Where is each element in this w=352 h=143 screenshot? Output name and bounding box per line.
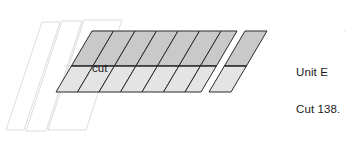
cut-number-label: Cut 138.: [296, 103, 340, 115]
corner-mark-glyph: ·: [343, 26, 346, 36]
unit-label: Unit E: [296, 66, 340, 78]
unit-cut-label-block: Unit E Cut 138.: [296, 42, 340, 140]
cut-label: cut: [92, 62, 108, 74]
main-band-lower-halves: [56, 66, 216, 92]
main-band-upper-halves: [71, 31, 237, 66]
diagram-canvas: cut Unit E Cut 138. ·: [0, 0, 352, 143]
